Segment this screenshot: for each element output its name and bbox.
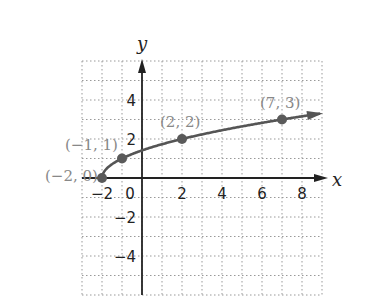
point-label: (2, 2) bbox=[160, 113, 200, 131]
y-axis-label: y bbox=[136, 33, 148, 54]
x-tick-label: 4 bbox=[217, 185, 227, 203]
x-axis-arrow-icon bbox=[314, 174, 328, 182]
data-points: (−2, 0)(−1, 1)(2, 2)(7, 3) bbox=[45, 94, 323, 186]
chart: −20246842−2−4 (−2, 0)(−1, 1)(2, 2)(7, 3)… bbox=[0, 0, 366, 301]
x-tick-label: 6 bbox=[257, 185, 267, 203]
data-point bbox=[97, 173, 107, 183]
y-tick-label: 2 bbox=[126, 131, 136, 149]
y-tick-label: −4 bbox=[114, 248, 136, 266]
point-label: (7, 3) bbox=[260, 94, 300, 112]
data-point bbox=[277, 115, 287, 125]
x-tick-label: 2 bbox=[177, 185, 187, 203]
point-label: (−2, 0) bbox=[45, 167, 98, 185]
x-axis-label: x bbox=[332, 169, 342, 190]
curve-arrow-icon bbox=[306, 111, 322, 120]
data-point bbox=[117, 154, 127, 164]
y-tick-label: −2 bbox=[114, 209, 136, 227]
x-tick-label: −2 bbox=[91, 185, 113, 203]
data-point bbox=[177, 134, 187, 144]
y-tick-label: 4 bbox=[126, 92, 136, 110]
point-label: (−1, 1) bbox=[65, 136, 118, 154]
x-tick-label: 8 bbox=[297, 185, 307, 203]
x-tick-label: 0 bbox=[125, 185, 135, 203]
